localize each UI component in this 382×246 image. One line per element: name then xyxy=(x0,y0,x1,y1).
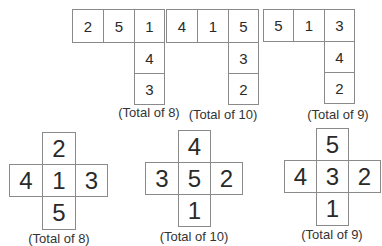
l2-row-cell-1: 4 xyxy=(166,9,198,43)
l1-column-cell-1: 4 xyxy=(134,42,165,74)
l2-row-cell-3: 5 xyxy=(228,9,259,43)
l3-column-cell-2: 2 xyxy=(324,72,355,104)
l1-total-label: (Total of 8) xyxy=(118,105,179,120)
l2-column-cell-2: 2 xyxy=(228,73,259,105)
l3-total-label: (Total of 9) xyxy=(307,107,368,122)
c3-total-label: (Total of 9) xyxy=(301,227,362,242)
c1-right-cell: 3 xyxy=(75,164,108,197)
c3-right-cell: 2 xyxy=(348,160,381,193)
c1-total-label: (Total of 8) xyxy=(28,231,89,246)
l1-row-cell-2: 5 xyxy=(103,9,135,43)
l3-column-cell-1: 4 xyxy=(324,41,355,73)
c3-center-cell: 3 xyxy=(316,160,349,193)
c1-top-cell: 2 xyxy=(42,132,76,165)
l1-row-cell-3: 1 xyxy=(134,9,165,43)
l2-total-label: (Total of 10) xyxy=(189,107,258,122)
l1-row-cell-1: 2 xyxy=(72,9,104,43)
c2-bottom-cell: 1 xyxy=(178,194,211,227)
l3-row-cell-2: 1 xyxy=(293,9,325,42)
c2-left-cell: 3 xyxy=(145,162,179,195)
c2-center-cell: 5 xyxy=(178,162,211,195)
c2-top-cell: 4 xyxy=(178,130,211,163)
l2-row-cell-2: 1 xyxy=(197,9,229,43)
c1-left-cell: 4 xyxy=(9,164,43,197)
l3-row-cell-3: 3 xyxy=(324,9,355,42)
c1-center-cell: 1 xyxy=(42,164,76,197)
l3-row-cell-1: 5 xyxy=(263,9,294,42)
c1-bottom-cell: 5 xyxy=(42,196,76,230)
l2-column-cell-1: 3 xyxy=(228,42,259,74)
l1-column-cell-2: 3 xyxy=(134,73,165,105)
c2-right-cell: 2 xyxy=(210,162,243,195)
c3-top-cell: 5 xyxy=(316,128,349,161)
c3-bottom-cell: 1 xyxy=(316,192,349,226)
c2-total-label: (Total of 10) xyxy=(160,229,229,244)
c3-left-cell: 4 xyxy=(284,160,317,193)
